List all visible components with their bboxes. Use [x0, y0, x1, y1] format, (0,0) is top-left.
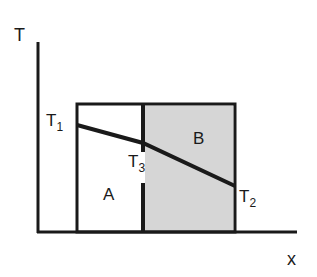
region-b-shading	[145, 106, 233, 231]
region-a-label: A	[103, 186, 114, 203]
region-b-label: B	[193, 130, 204, 147]
diagram-canvas	[0, 0, 317, 277]
t1-base: T	[46, 111, 56, 130]
t2-sub: 2	[249, 196, 256, 210]
y-axis-label: T	[14, 26, 25, 44]
t3-base: T	[128, 152, 138, 171]
label-t3: T3	[128, 153, 145, 170]
t2-base: T	[239, 187, 249, 206]
t1-sub: 1	[56, 120, 63, 134]
t3-sub: 3	[138, 161, 145, 175]
label-t1: T1	[46, 112, 63, 129]
x-axis-label: x	[287, 250, 296, 268]
label-t2: T2	[239, 188, 256, 205]
